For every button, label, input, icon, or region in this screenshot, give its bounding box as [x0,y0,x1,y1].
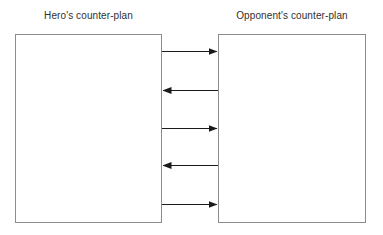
hero-counter-plan-box [15,34,162,223]
opponent-counter-plan-label: Opponent's counter-plan [218,10,366,22]
counter-plan-exchange-diagram: Hero's counter-plan Opponent's counter-p… [0,0,383,235]
opponent-counter-plan-box [218,34,366,223]
hero-counter-plan-label: Hero's counter-plan [15,10,162,22]
